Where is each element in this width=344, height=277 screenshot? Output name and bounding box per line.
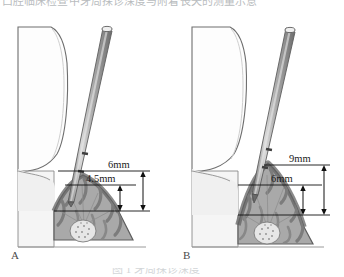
panel-label-b: B — [183, 249, 190, 261]
figure-root: 口腔临床检查中牙周探诊深度与附着丧失的测量示意 — [0, 0, 344, 277]
figure-header-text: 口腔临床检查中牙周探诊深度与附着丧失的测量示意 — [2, 0, 257, 8]
pulp-chamber — [70, 220, 96, 242]
panel-b-illustration: 9mm 6mm — [172, 25, 344, 260]
figure-caption-strip: 图 1 牙周探诊深度 — [0, 268, 344, 277]
measure-label-outer: 9mm — [289, 153, 311, 164]
measure-arrow-outer — [140, 171, 145, 211]
panel-a: 6mm 4.5mm — [0, 25, 172, 260]
pulp-chamber — [254, 222, 280, 244]
panel-b: 9mm 6mm — [172, 25, 344, 260]
measure-arrow-inner — [300, 185, 305, 215]
tooth-crown — [192, 27, 247, 171]
measure-label-inner: 6mm — [271, 173, 293, 184]
panel-a-illustration: 6mm 4.5mm — [0, 25, 172, 260]
measure-label-outer: 6mm — [108, 159, 130, 170]
panel-label-a: A — [11, 249, 19, 261]
figure-caption-text: 图 1 牙周探诊深度 — [112, 268, 200, 276]
measure-arrow-outer — [321, 165, 326, 215]
tooth-crown — [18, 27, 68, 171]
measure-label-inner: 4.5mm — [86, 173, 115, 184]
figure-header-strip: 口腔临床检查中牙周探诊深度与附着丧失的测量示意 — [0, 0, 344, 9]
